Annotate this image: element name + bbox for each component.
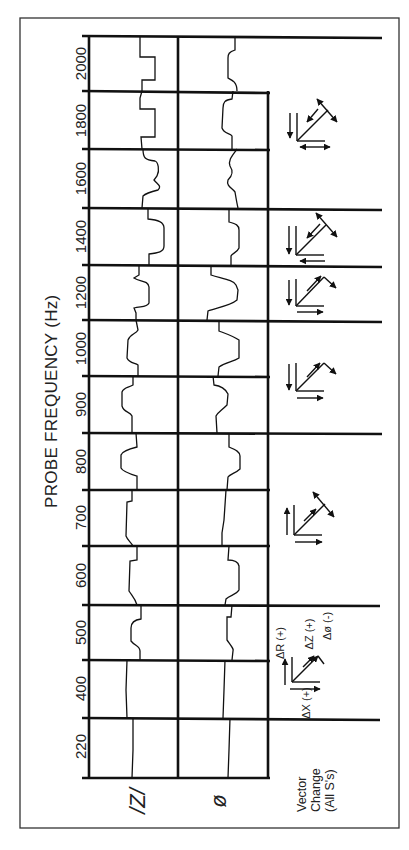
freq-label-800: 800 <box>72 442 89 482</box>
freq-label-700: 700 <box>72 498 89 538</box>
freq-label-1800: 1800 <box>72 101 89 141</box>
impedance-traces <box>121 36 164 778</box>
freq-label-1200: 1200 <box>72 273 89 313</box>
vector-diagram-1400 <box>289 213 337 261</box>
freq-label-600: 600 <box>72 556 89 596</box>
freq-label-1600: 1600 <box>72 159 89 199</box>
freq-label-400: 400 <box>72 669 89 709</box>
row-label-phase: ø <box>206 786 232 816</box>
freq-label-2000: 2000 <box>72 44 89 84</box>
vector-diagram-700-600 <box>287 492 334 542</box>
freq-label-220: 220 <box>72 727 89 767</box>
vector-diagram-1000-900 <box>289 363 336 398</box>
legend-delta-r: ΔR (+) <box>274 621 286 665</box>
freq-label-900: 900 <box>72 385 89 425</box>
vector-change-label: Vector Change (All S's) <box>295 752 339 812</box>
vector-diagrams <box>285 99 337 689</box>
vector-diagram-1200 <box>289 276 336 312</box>
freq-label-1400: 1400 <box>72 217 89 257</box>
legend-delta-x: ΔX (+) <box>300 683 312 723</box>
legend-delta-z: ΔZ (+) <box>303 612 315 656</box>
vector-diagram-1800 <box>290 99 337 147</box>
legend-delta-phi: Δø (-) <box>321 604 333 648</box>
chart-title: PROBE FREQUENCY (Hz) <box>42 308 62 508</box>
phase-traces <box>207 36 240 778</box>
freq-label-500: 500 <box>72 613 89 653</box>
row-label-impedance: /Z/ <box>125 781 151 821</box>
freq-label-1000: 1000 <box>72 329 89 369</box>
